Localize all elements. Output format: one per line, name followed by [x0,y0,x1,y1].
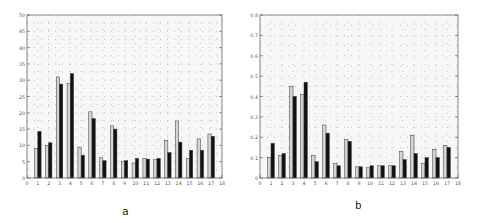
bar [337,166,340,178]
x-tick-label: 4 [302,181,305,186]
bar [290,86,293,178]
bar [436,158,439,178]
x-tick-label: 5 [313,181,316,186]
y-tick-label: 40 [19,46,25,51]
y-tick-label: 35 [19,62,25,67]
x-tick-label: 13 [165,181,171,186]
bar [444,145,447,178]
x-tick-label: 0 [25,181,28,186]
x-tick-label: 7 [101,181,104,186]
x-tick-label: 6 [324,181,327,186]
y-tick-label: 10 [19,143,25,148]
bar [279,156,282,178]
x-tick-label: 3 [291,181,294,186]
bar-chart-b: 00.10.20.30.40.50.60.70.8012345678910111… [236,0,478,200]
bar [175,121,178,178]
bar [381,166,384,178]
bar [348,141,351,178]
x-tick-label: 2 [280,181,283,186]
bar [146,159,149,178]
y-tick-label: 0.3 [250,115,258,120]
y-tick-label: 0.2 [250,135,258,140]
x-tick-label: 15 [186,181,192,186]
x-tick-label: 12 [154,181,160,186]
chart-panel-a: 0510152025303540455001234567891011121314… [0,0,240,204]
x-tick-label: 17 [444,181,450,186]
y-tick-label: 45 [19,29,25,34]
x-tick-label: 17 [208,181,214,186]
bar [179,142,182,178]
bar [35,149,38,178]
bar [400,152,403,178]
y-tick-label: 20 [19,111,25,116]
bar [103,161,106,178]
x-tick-label: 3 [58,181,61,186]
bar [190,150,193,178]
bar [125,161,128,178]
bar [135,158,138,178]
bar [143,158,146,178]
bar [56,77,59,178]
bar [312,156,315,178]
x-tick-label: 1 [269,181,272,186]
bar [157,158,160,178]
bar [389,166,392,178]
x-tick-label: 11 [378,181,384,186]
x-tick-label: 6 [90,181,93,186]
x-tick-label: 9 [123,181,126,186]
bar [323,125,326,178]
bar [49,143,52,178]
bar [165,140,168,178]
bar [359,167,362,178]
x-tick-label: 14 [411,181,417,186]
bar [293,97,296,179]
bar [197,139,200,178]
bar [132,163,135,178]
x-tick-label: 15 [422,181,428,186]
x-tick-label: 8 [112,181,115,186]
bar [378,166,381,178]
x-tick-label: 1 [36,181,39,186]
caption-b: b [355,199,362,212]
bar [70,74,73,178]
bar [411,135,414,178]
bar [208,134,211,178]
bar [60,84,63,178]
x-tick-label: 18 [455,181,461,186]
x-tick-label: 0 [258,181,261,186]
bar [367,168,370,178]
x-tick-label: 14 [176,181,182,186]
y-tick-label: 0.5 [250,74,258,79]
x-tick-label: 10 [367,181,373,186]
bar [326,133,329,178]
bar [345,139,348,178]
y-tick-label: 5 [22,160,25,165]
bar [392,166,395,178]
bar [200,150,203,178]
y-tick-label: 0.7 [250,33,258,38]
bar [114,129,117,178]
bar [100,158,103,178]
bar [211,136,214,178]
y-tick-label: 15 [19,127,25,132]
y-tick-label: 0.8 [250,13,258,18]
x-tick-label: 18 [219,181,225,186]
bar [282,154,285,178]
bar [433,149,436,178]
x-tick-label: 12 [389,181,395,186]
y-tick-label: 0.1 [250,156,258,161]
bar [422,164,425,178]
x-tick-label: 16 [433,181,439,186]
bar [403,160,406,178]
bar [168,153,171,178]
bar [315,162,318,178]
bar [414,154,417,178]
bar [81,155,84,178]
bar [186,158,189,178]
chart-panel-b: 00.10.20.30.40.50.60.70.8012345678910111… [236,0,478,204]
x-tick-label: 13 [400,181,406,186]
x-tick-label: 5 [80,181,83,186]
bar [447,147,450,178]
x-tick-label: 11 [143,181,149,186]
bar [356,167,359,178]
